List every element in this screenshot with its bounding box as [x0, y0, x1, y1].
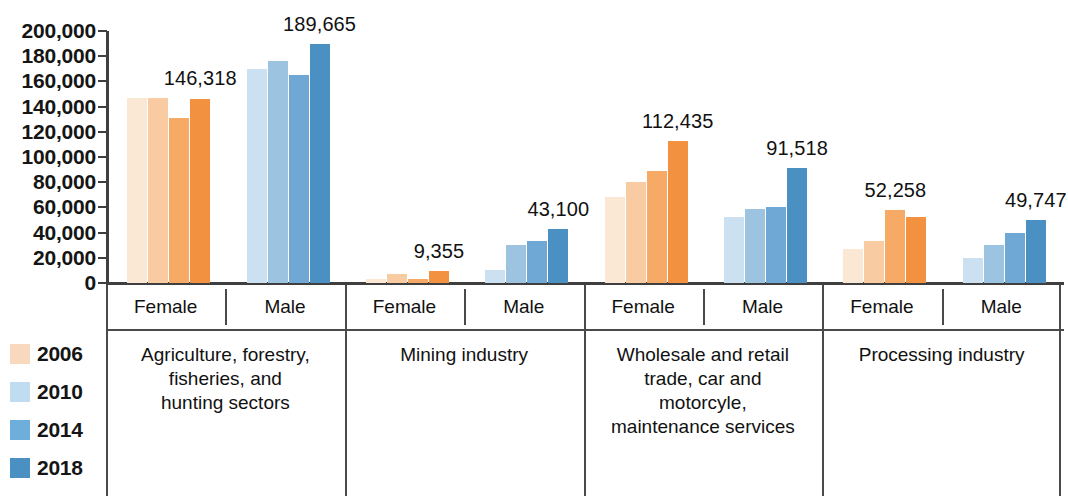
y-axis-tick-mark — [98, 106, 107, 108]
bar[interactable] — [724, 217, 744, 283]
legend-swatch-icon — [10, 420, 30, 440]
gender-divider — [464, 289, 466, 325]
gender-divider — [703, 289, 705, 325]
legend-swatch-icon — [10, 458, 30, 478]
bar[interactable] — [169, 118, 189, 283]
legend-label: 2006 — [37, 342, 83, 366]
gender-axis-label: Female — [106, 285, 225, 329]
bar[interactable] — [366, 279, 386, 283]
bar[interactable] — [429, 271, 449, 283]
bar[interactable] — [745, 209, 765, 283]
gender-axis-label: Female — [822, 285, 941, 329]
bar[interactable] — [906, 217, 926, 283]
bar[interactable] — [190, 99, 210, 283]
y-axis-tick-label: 180,000 — [21, 44, 96, 68]
y-axis-tick-mark — [98, 55, 107, 57]
legend-item[interactable]: 2010 — [10, 373, 105, 411]
bar[interactable] — [268, 61, 288, 283]
y-axis-tick-mark — [98, 206, 107, 208]
bar[interactable] — [387, 274, 407, 283]
gender-divider — [225, 289, 227, 325]
bar-value-label: 91,518 — [766, 137, 828, 160]
y-axis-tick-label: 200,000 — [21, 19, 96, 43]
y-axis-tick-mark — [98, 181, 107, 183]
sector-divider — [1059, 285, 1061, 496]
bar[interactable] — [766, 207, 786, 283]
sector-axis-label: Mining industry — [345, 329, 584, 496]
bar-value-label: 52,258 — [865, 179, 927, 202]
legend-item[interactable]: 2006 — [10, 335, 105, 373]
sector-axis-label-line: Agriculture, forestry, — [106, 343, 345, 367]
sector-axis-label-line: Mining industry — [345, 343, 584, 367]
y-axis-tick-mark — [98, 131, 107, 133]
bar[interactable] — [310, 44, 330, 283]
sector-divider — [584, 285, 586, 496]
bar[interactable] — [1005, 233, 1025, 283]
legend-swatch-icon — [10, 344, 30, 364]
bar[interactable] — [289, 75, 309, 283]
y-axis-tick-mark — [98, 257, 107, 259]
sector-axis-label-line: Processing industry — [822, 343, 1061, 367]
legend-swatch-icon — [10, 382, 30, 402]
y-axis-tick-label: 120,000 — [21, 120, 96, 144]
bar[interactable] — [605, 197, 625, 283]
bar[interactable] — [963, 258, 983, 283]
sector-axis-label-line: motorcyle, — [584, 391, 823, 415]
y-axis-tick-label: 80,000 — [33, 170, 96, 194]
y-axis-tick-label: 40,000 — [33, 221, 96, 245]
bar[interactable] — [668, 141, 688, 283]
y-axis-tick-label: 20,000 — [33, 246, 96, 270]
legend-item[interactable]: 2018 — [10, 449, 105, 487]
y-axis-tick-label: 60,000 — [33, 195, 96, 219]
bar[interactable] — [626, 182, 646, 283]
gender-axis-label: Male — [942, 285, 1061, 329]
sector-divider — [345, 285, 347, 496]
bar[interactable] — [864, 241, 884, 283]
sector-divider — [822, 285, 824, 496]
bar-value-label: 146,318 — [164, 67, 237, 90]
legend-label: 2010 — [37, 380, 83, 404]
bar[interactable] — [506, 245, 526, 283]
bar[interactable] — [647, 171, 667, 283]
bar[interactable] — [148, 98, 168, 283]
bar[interactable] — [984, 245, 1004, 283]
gender-axis-label: Male — [225, 285, 344, 329]
bar-value-label: 43,100 — [527, 198, 589, 221]
legend-label: 2014 — [37, 418, 83, 442]
bar[interactable] — [247, 69, 267, 283]
bar[interactable] — [787, 168, 807, 283]
sector-axis-label: Wholesale and retailtrade, car andmotorc… — [584, 329, 823, 496]
category-table-rule — [106, 329, 1064, 331]
bar[interactable] — [127, 98, 147, 283]
sector-axis-label: Processing industry — [822, 329, 1061, 496]
bar[interactable] — [885, 210, 905, 283]
gender-axis-label: Female — [345, 285, 464, 329]
bar[interactable] — [485, 270, 505, 283]
bar[interactable] — [548, 229, 568, 283]
plot-area: 146,318189,6659,35543,100112,43591,51852… — [109, 31, 1064, 283]
bar-value-label: 9,355 — [414, 240, 465, 263]
bar[interactable] — [843, 249, 863, 283]
bar-value-label: 49,747 — [1005, 189, 1067, 212]
sector-axis-label-line: fisheries, and — [106, 367, 345, 391]
gender-axis-label: Female — [584, 285, 703, 329]
bar[interactable] — [527, 241, 547, 283]
y-axis-tick-mark — [98, 80, 107, 82]
bar-value-label: 112,435 — [642, 110, 714, 133]
y-axis-tick-mark — [98, 232, 107, 234]
y-axis-tick-mark — [98, 282, 107, 284]
y-axis-tick-label: 140,000 — [21, 95, 96, 119]
legend-label: 2018 — [37, 456, 83, 480]
bar[interactable] — [1026, 220, 1046, 283]
legend-item[interactable]: 2014 — [10, 411, 105, 449]
sector-axis-label-line: Wholesale and retail — [584, 343, 823, 367]
bar-value-label: 189,665 — [283, 13, 356, 36]
sector-axis-label-line: trade, car and — [584, 367, 823, 391]
y-axis-tick-label: 0 — [85, 271, 96, 295]
y-axis-tick-mark — [98, 30, 107, 32]
y-axis-tick-mark — [98, 156, 107, 158]
sector-axis-label: Agriculture, forestry,fisheries, andhunt… — [106, 329, 345, 496]
legend: 2006201020142018 — [10, 335, 105, 487]
bar[interactable] — [408, 279, 428, 283]
sector-axis-label-line: hunting sectors — [106, 391, 345, 415]
